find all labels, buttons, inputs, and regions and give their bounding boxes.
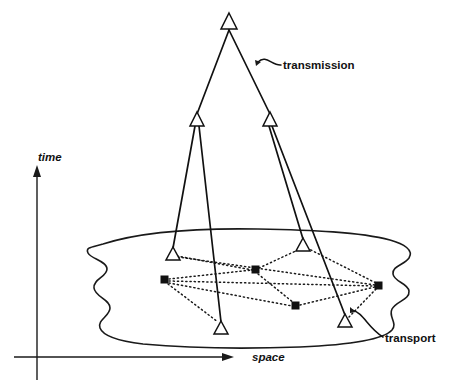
diagram-root: Layered transmission and transport netwo… <box>0 0 456 387</box>
space-plane-group <box>87 229 410 348</box>
transport-link <box>168 284 218 322</box>
transmission-node-low-right[interactable] <box>296 238 310 251</box>
transport-node-bottom[interactable] <box>292 302 299 309</box>
transport-link <box>169 270 252 279</box>
transmission-link <box>197 30 229 114</box>
transmission-label: transmission <box>283 59 355 71</box>
transport-node-left[interactable] <box>161 276 168 283</box>
transmission-link <box>269 126 303 239</box>
transmission-node-low-left[interactable] <box>166 247 180 260</box>
transport-link <box>169 283 292 306</box>
time-axis-label: time <box>38 151 62 163</box>
time-axis-arrow-icon <box>33 165 41 177</box>
space-axis-arrow-icon <box>222 353 234 361</box>
space-plane-cloud <box>87 229 410 348</box>
transport-node-center[interactable] <box>252 266 259 273</box>
space-axis-label: space <box>252 351 285 363</box>
transmission-leader-line <box>258 59 281 65</box>
transport-node-right[interactable] <box>375 282 382 289</box>
transmission-links-group <box>173 30 345 322</box>
transmission-node-mid-right[interactable] <box>263 112 277 126</box>
network-layer-diagram: Layered transmission and transport netwo… <box>0 0 456 387</box>
callout-transport: transport <box>350 307 436 344</box>
transport-link <box>259 249 300 268</box>
transmission-node-mid-left[interactable] <box>190 112 204 126</box>
transport-link <box>178 257 375 285</box>
transport-link <box>307 248 376 283</box>
transport-link <box>258 274 294 303</box>
transport-leader-line <box>352 310 383 337</box>
transmission-node-apex[interactable] <box>221 13 237 29</box>
callout-transmission: transmission <box>255 59 355 71</box>
transmission-link <box>272 126 345 315</box>
transmission-node-bottom-left[interactable] <box>214 321 228 334</box>
transport-link <box>349 289 376 317</box>
transport-label: transport <box>385 332 436 344</box>
transmission-link <box>199 126 221 322</box>
axes-group: time space <box>14 151 285 380</box>
transport-links-group <box>168 248 376 322</box>
transmission-link <box>229 30 270 114</box>
